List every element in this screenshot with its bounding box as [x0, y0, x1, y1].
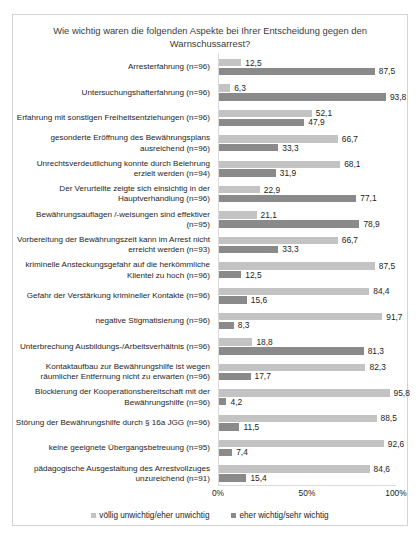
bar-row: 6,3 — [219, 84, 397, 91]
bar-row: 18,8 — [219, 338, 397, 345]
x-axis: 0%50%100% — [218, 485, 407, 501]
bar-segment — [219, 364, 365, 371]
bar-row: 87,5 — [219, 68, 397, 75]
bar-segment — [219, 195, 356, 202]
bar-row: 17,7 — [219, 373, 397, 380]
category-label-column: Arresterfahrung (n=96)Untersuchungshafte… — [13, 53, 218, 485]
category-label: Unterbrechung Ausbildungs-/Arbeitsverhäl… — [13, 342, 210, 352]
legend-swatch-icon-light — [91, 513, 96, 518]
category-label: Bewährungsauflagen /-weisungen sind effe… — [13, 210, 210, 230]
category-label: Vorbereitung der Bewährungszeit kann im … — [13, 235, 210, 255]
bar-value-label: 8,3 — [234, 320, 250, 330]
bar-value-label: 84,4 — [369, 286, 389, 296]
bar-value-label: 31,9 — [276, 168, 296, 178]
category-label: Erfahrung mit sonstigen Freiheitsentzieh… — [13, 113, 210, 123]
bar-value-label: 66,7 — [338, 134, 358, 144]
legend-swatch-icon-dark — [231, 513, 236, 518]
bar-value-label: 88,5 — [377, 413, 397, 423]
bar-value-label: 15,6 — [247, 295, 267, 305]
bar-value-label: 18,8 — [252, 337, 272, 347]
bar-segment — [219, 84, 230, 91]
bar-row: 66,7 — [219, 135, 397, 142]
bar-row: 78,9 — [219, 220, 397, 227]
bar-segment — [219, 262, 375, 269]
bar-row: 81,3 — [219, 347, 397, 354]
bar-row: 33,3 — [219, 144, 397, 151]
category-label: negative Stigmatisierung (n=96) — [13, 316, 210, 326]
bar-segment — [219, 68, 375, 75]
bar-value-label: 92,6 — [384, 439, 404, 449]
category-label: Arresterfahrung (n=96) — [13, 62, 210, 72]
bar-segment — [219, 119, 304, 126]
bar-value-label: 82,3 — [365, 362, 385, 372]
bar-value-label: 22,9 — [260, 185, 280, 195]
bar-row: 92,6 — [219, 440, 397, 447]
bar-segment — [219, 288, 369, 295]
bar-row: 88,5 — [219, 415, 397, 422]
bar-segment — [219, 322, 234, 329]
bar-row: 84,6 — [219, 465, 397, 472]
bar-row: 91,7 — [219, 313, 397, 320]
bar-row: 22,9 — [219, 186, 397, 193]
chart-container: Wie wichtig waren die folgenden Aspekte … — [12, 14, 408, 526]
chart-title: Wie wichtig waren die folgenden Aspekte … — [31, 24, 389, 50]
legend-item-wichtig: eher wichtig/sehr wichtig — [231, 511, 328, 520]
bar-segment — [219, 211, 257, 218]
bar-row: 7,4 — [219, 449, 397, 456]
bar-value-label: 17,7 — [251, 371, 271, 381]
x-axis-tick-label: 100% — [385, 488, 406, 498]
category-label: Störung der Bewährungshilfe durch § 16a … — [13, 418, 210, 428]
bar-row: 93,8 — [219, 93, 397, 100]
bar-row: 4,2 — [219, 398, 397, 405]
x-axis-line — [218, 485, 396, 486]
bar-row: 95,8 — [219, 389, 397, 396]
bar-row: 31,9 — [219, 169, 397, 176]
bar-segment — [219, 169, 276, 176]
bar-value-label: 95,8 — [390, 388, 410, 398]
bar-row: 15,4 — [219, 474, 397, 481]
legend-label-unwichtig: völlig unwichtig/eher unwichtig — [99, 511, 209, 520]
bar-value-label: 78,9 — [359, 219, 379, 229]
bar-value-label: 66,7 — [338, 235, 358, 245]
bar-segment — [219, 161, 340, 168]
bar-segment — [219, 237, 338, 244]
bar-segment — [219, 449, 232, 456]
bar-value-label: 12,5 — [241, 58, 261, 68]
bar-value-label: 12,5 — [241, 270, 261, 280]
bar-row: 12,5 — [219, 271, 397, 278]
bar-segment — [219, 398, 226, 405]
bar-segment — [219, 144, 278, 151]
bar-row: 66,7 — [219, 237, 397, 244]
bar-value-label: 21,1 — [257, 210, 277, 220]
category-label: keine geeignete Übergangsbetreuung (n=95… — [13, 443, 210, 453]
bar-segment — [219, 338, 252, 345]
x-axis-tick-label: 50% — [299, 488, 316, 498]
x-axis-tick-label: 0% — [212, 488, 224, 498]
bar-segment — [219, 271, 241, 278]
bar-value-label: 77,1 — [356, 193, 376, 203]
bar-value-label: 6,3 — [230, 83, 246, 93]
legend-item-unwichtig: völlig unwichtig/eher unwichtig — [91, 511, 209, 520]
category-label: gesonderte Eröffnung des Bewährungsplans… — [13, 133, 210, 153]
bar-segment — [219, 135, 338, 142]
bar-value-label: 87,5 — [375, 261, 395, 271]
bar-segment — [219, 347, 364, 354]
bar-row: 82,3 — [219, 364, 397, 371]
bar-segment — [219, 186, 260, 193]
bar-segment — [219, 59, 241, 66]
bar-row: 15,6 — [219, 296, 397, 303]
bar-value-label: 93,8 — [386, 92, 406, 102]
bar-segment — [219, 93, 386, 100]
bar-value-label: 33,3 — [278, 244, 298, 254]
bar-row: 77,1 — [219, 195, 397, 202]
bar-value-label: 68,1 — [340, 159, 360, 169]
bar-row: 12,5 — [219, 59, 397, 66]
bar-row: 8,3 — [219, 322, 397, 329]
bar-value-label: 91,7 — [382, 312, 402, 322]
bar-segment — [219, 296, 247, 303]
bar-segment — [219, 220, 359, 227]
category-label: Der Verurteilte zeigte sich einsichtig i… — [13, 184, 210, 204]
chart-legend: völlig unwichtig/eher unwichtig eher wic… — [13, 507, 407, 523]
bar-segment — [219, 415, 377, 422]
bar-value-label: 33,3 — [278, 143, 298, 153]
